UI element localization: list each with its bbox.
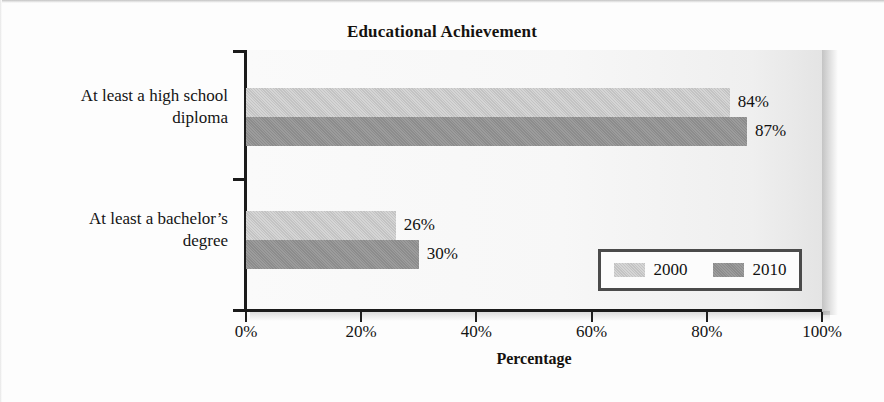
x-axis-tick-label: 80% — [672, 322, 742, 342]
x-axis-tick-label: 40% — [441, 322, 511, 342]
category-label-line: degree — [0, 230, 228, 252]
category-label-high-school: At least a high school diploma — [0, 85, 228, 129]
x-axis-tick-label: 20% — [326, 322, 396, 342]
chart-page: Educational Achievement At least a high … — [0, 0, 884, 402]
legend-swatch-2000-icon — [614, 263, 645, 277]
scan-edge-artifact-top — [0, 0, 884, 3]
x-axis-tick — [245, 312, 247, 322]
x-axis-tick — [475, 312, 477, 322]
bar-value-high-school-2000: 84% — [738, 92, 769, 112]
y-axis-tick-bottom — [233, 309, 244, 312]
bar-value-high-school-2010: 87% — [755, 121, 786, 141]
bar-bachelors-2000 — [246, 211, 396, 240]
legend-entry-2000: 2000 — [614, 260, 688, 280]
category-label-line: At least a bachelor’s — [0, 208, 228, 230]
y-axis-tick-top — [233, 50, 244, 53]
bar-high-school-2010 — [246, 117, 747, 146]
x-axis-tick — [706, 312, 708, 322]
chart-legend: 2000 2010 — [598, 249, 802, 291]
scan-edge-artifact-left — [0, 0, 2, 402]
legend-label-2000: 2000 — [654, 260, 688, 280]
bar-high-school-2000 — [246, 88, 730, 117]
x-axis-tick-label: 0% — [211, 322, 281, 342]
x-axis-tick — [821, 312, 823, 322]
legend-swatch-2010-icon — [713, 263, 744, 277]
bar-value-bachelors-2000: 26% — [404, 215, 435, 235]
category-label-line: diploma — [0, 107, 228, 129]
x-axis-title: Percentage — [246, 350, 822, 368]
plot-shadow-right — [822, 50, 838, 315]
x-axis-line — [244, 309, 822, 312]
category-label-bachelors: At least a bachelor’s degree — [0, 208, 228, 252]
legend-entry-2010: 2010 — [713, 260, 787, 280]
x-axis-tick — [591, 312, 593, 322]
bar-bachelors-2010 — [246, 240, 419, 269]
y-axis-tick-middle — [233, 178, 244, 181]
x-axis-tick-label: 60% — [557, 322, 627, 342]
category-label-line: At least a high school — [0, 85, 228, 107]
x-axis-tick-label: 100% — [787, 322, 857, 342]
legend-label-2010: 2010 — [753, 260, 787, 280]
bar-value-bachelors-2010: 30% — [427, 244, 458, 264]
plot-shadow-bottom — [250, 311, 830, 321]
chart-title: Educational Achievement — [0, 22, 884, 42]
x-axis-tick — [360, 312, 362, 322]
